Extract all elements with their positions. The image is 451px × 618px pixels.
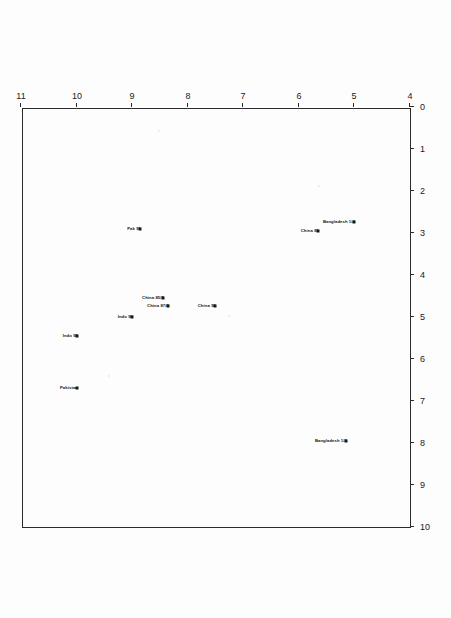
scan-speckle (228, 315, 230, 317)
y-axis-tick (410, 442, 414, 443)
y-axis-tick-label: 1 (420, 144, 425, 154)
y-axis-tick-label: 7 (420, 396, 425, 406)
x-axis-tick (242, 103, 243, 107)
x-axis-tick (20, 103, 21, 107)
y-axis-tick (410, 526, 414, 527)
y-axis-tick-label: 5 (420, 312, 425, 322)
data-point-label: Bangladesh 1/4 (323, 220, 357, 224)
x-axis-tick-label: 4 (407, 91, 412, 101)
x-axis-tick-label: 9 (130, 91, 135, 101)
y-axis-tick (410, 316, 414, 317)
data-point-label: China 95 (198, 304, 218, 308)
scan-speckle (158, 130, 160, 132)
data-point-label: Indo 95 (62, 334, 79, 338)
x-axis-tick (298, 103, 299, 107)
data-point-label: Pak 91 (128, 227, 144, 231)
x-axis-tick (187, 103, 188, 107)
y-axis-tick-label: 3 (420, 228, 425, 238)
x-axis-tick (76, 103, 77, 107)
x-axis-tick (353, 103, 354, 107)
scan-speckle (318, 185, 320, 187)
y-axis-tick-label: 9 (420, 480, 425, 490)
x-axis-tick-label: 5 (352, 91, 357, 101)
data-point-label: China 81 (301, 229, 321, 233)
y-axis-tick (410, 358, 414, 359)
x-axis-tick-label: 6 (296, 91, 301, 101)
y-axis-tick-label: 4 (420, 270, 425, 280)
y-axis-tick (410, 232, 414, 233)
x-axis-tick (131, 103, 132, 107)
data-point-label: Pakistan (60, 386, 80, 390)
y-axis-tick-label: 2 (420, 186, 425, 196)
scan-speckle (269, 456, 270, 457)
y-axis-tick-label: 0 (420, 102, 425, 112)
y-axis-tick-label: 6 (420, 354, 425, 364)
y-axis-tick-label: 10 (420, 522, 430, 532)
y-axis-tick (410, 400, 414, 401)
y-axis-tick-label: 8 (420, 438, 425, 448)
x-axis-tick-label: 7 (241, 91, 246, 101)
data-point-label: China 87/8 (147, 304, 171, 308)
data-point-label: Bangladesh 1/2 (315, 439, 349, 443)
y-axis-tick (410, 148, 414, 149)
data-point-label: Indo 90 (118, 315, 135, 319)
scanned-figure: 4567891011012345678910PakistanIndo 95Ind… (0, 0, 451, 618)
x-axis-tick-label: 10 (72, 91, 82, 101)
y-axis-tick (410, 274, 414, 275)
x-axis-tick-label: 8 (185, 91, 190, 101)
x-axis-tick-label: 11 (16, 91, 25, 101)
y-axis-tick (410, 484, 414, 485)
data-point-label: China 85/9 (142, 296, 166, 300)
scan-speckle (108, 375, 110, 377)
y-axis-tick (410, 190, 414, 191)
plot-frame: 4567891011012345678910PakistanIndo 95Ind… (22, 108, 411, 528)
y-axis-tick (410, 106, 414, 107)
chart-figure: 4567891011012345678910PakistanIndo 95Ind… (0, 0, 451, 618)
plot-area: 4567891011012345678910PakistanIndo 95Ind… (23, 109, 410, 527)
